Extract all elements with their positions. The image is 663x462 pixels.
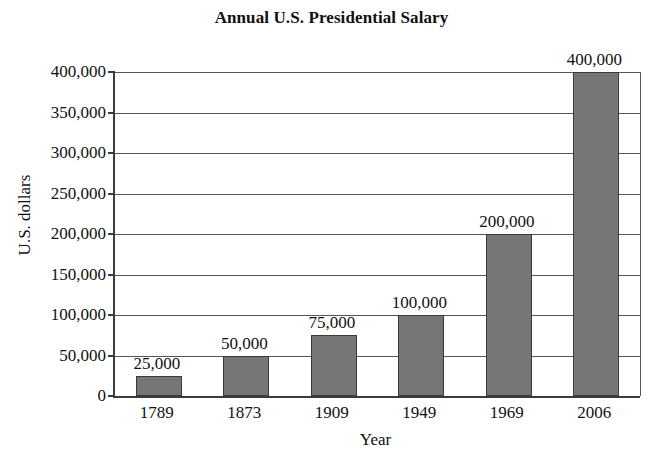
y-axis-tick bbox=[108, 152, 115, 154]
y-axis-tick bbox=[108, 274, 115, 276]
x-axis-tick-label: 1873 bbox=[194, 404, 294, 422]
bar bbox=[486, 234, 532, 396]
bar bbox=[136, 376, 182, 396]
bar-value-label: 200,000 bbox=[447, 213, 567, 230]
y-axis-tick bbox=[108, 233, 115, 235]
gridline bbox=[115, 72, 640, 73]
x-axis-title: Year bbox=[113, 430, 638, 450]
bar-value-label: 50,000 bbox=[184, 335, 304, 352]
y-axis-tick-label: 100,000 bbox=[14, 306, 106, 323]
y-axis-tick bbox=[108, 112, 115, 114]
gridline bbox=[115, 275, 640, 276]
bar-value-label: 75,000 bbox=[272, 314, 392, 331]
y-axis-tick-label: 0 bbox=[14, 387, 106, 404]
plot-right-edge bbox=[640, 72, 641, 396]
y-axis-tick bbox=[108, 314, 115, 316]
bar-chart-figure: Annual U.S. Presidential Salary 050,0001… bbox=[0, 0, 663, 462]
gridline bbox=[115, 153, 640, 154]
bar-value-label: 25,000 bbox=[97, 355, 217, 372]
y-axis-title: U.S. dollars bbox=[15, 130, 35, 300]
bar-value-label: 400,000 bbox=[534, 51, 654, 68]
bar bbox=[398, 315, 444, 396]
gridline bbox=[115, 113, 640, 114]
bar-value-label: 100,000 bbox=[359, 294, 479, 311]
bar bbox=[223, 356, 269, 397]
y-axis-tick bbox=[108, 193, 115, 195]
x-axis-tick-label: 1909 bbox=[282, 404, 382, 422]
bar bbox=[311, 335, 357, 396]
y-axis-tick bbox=[108, 71, 115, 73]
gridline bbox=[115, 194, 640, 195]
x-axis-tick-label: 1949 bbox=[369, 404, 469, 422]
gridline bbox=[115, 234, 640, 235]
x-axis-tick-label: 1789 bbox=[107, 404, 207, 422]
y-axis-tick-label: 350,000 bbox=[14, 104, 106, 121]
x-axis-tick-label: 2006 bbox=[544, 404, 644, 422]
bar bbox=[573, 72, 619, 396]
y-axis-tick-label: 50,000 bbox=[14, 347, 106, 364]
x-axis-tick-label: 1969 bbox=[457, 404, 557, 422]
y-axis-tick-label: 400,000 bbox=[14, 63, 106, 80]
y-axis-tick bbox=[108, 395, 115, 397]
